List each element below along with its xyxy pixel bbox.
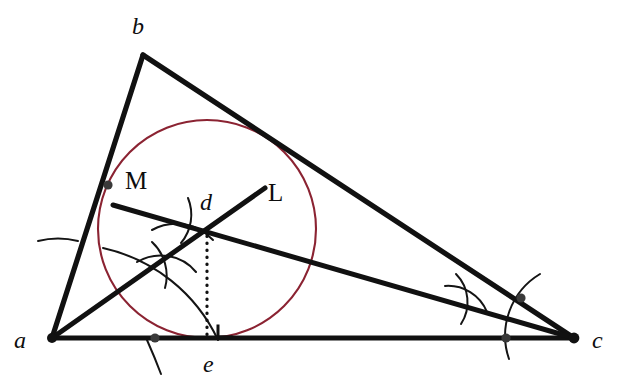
crossing-arcs-a xyxy=(137,242,196,288)
bisector-label-m: M xyxy=(125,168,147,193)
bisector-label-l: L xyxy=(268,180,283,205)
figure-canvas xyxy=(0,0,636,386)
point-on-ac-from-c xyxy=(501,333,510,342)
angle-bisector-a-line xyxy=(52,188,265,338)
point-on-ac-from-a xyxy=(150,333,159,342)
arc-tick-below-ac-left xyxy=(147,340,161,374)
point-on-ab-from-a xyxy=(103,180,112,189)
arc-c-main xyxy=(505,274,540,359)
triangle-abc xyxy=(52,55,574,338)
crossing-arc-upper-1 xyxy=(181,198,191,243)
point-label-d: d xyxy=(200,190,212,214)
vertex-label-c: c xyxy=(592,328,603,352)
side-ab xyxy=(52,55,143,338)
crossing-arcs-c xyxy=(445,274,487,324)
vertex-dot-a xyxy=(47,333,57,343)
vertex-dot-c xyxy=(569,333,580,344)
point-on-bc-from-c xyxy=(516,293,525,302)
point-label-e: e xyxy=(203,352,214,376)
angle-bisector-c-line xyxy=(113,205,574,338)
crossing-arc-c-1 xyxy=(456,274,468,324)
arc-tick-left xyxy=(38,239,78,242)
vertex-label-a: a xyxy=(14,328,26,352)
arcs-at-vertex-c xyxy=(505,274,540,359)
geometry-figure: a b c d e M L xyxy=(0,0,636,386)
vertex-label-b: b xyxy=(132,14,144,38)
